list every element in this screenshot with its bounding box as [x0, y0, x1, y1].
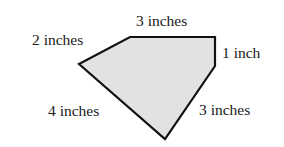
label-lower-left-side: 4 inches	[48, 102, 99, 119]
label-right-side: 1 inch	[222, 44, 261, 61]
label-upper-left-side: 2 inches	[32, 31, 83, 48]
pentagon-diagram: 3 inches 2 inches 1 inch 4 inches 3 inch…	[0, 0, 284, 147]
label-top-side: 3 inches	[136, 12, 187, 29]
pentagon-shape	[79, 37, 215, 139]
label-lower-right-side: 3 inches	[199, 101, 250, 118]
